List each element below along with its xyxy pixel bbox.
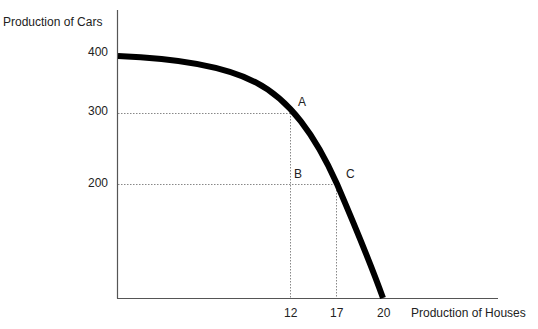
x-axis-label: Production of Houses [411, 307, 526, 319]
x-tick-17: 17 [330, 307, 343, 319]
ppf-curve [118, 56, 383, 298]
ppf-chart [0, 0, 538, 329]
y-tick-200: 200 [88, 177, 108, 189]
y-axis-label: Production of Cars [3, 16, 102, 28]
point-c-label: C [346, 168, 355, 180]
y-tick-400: 400 [88, 46, 108, 58]
point-b-label: B [294, 168, 302, 180]
x-tick-20: 20 [377, 307, 390, 319]
point-a-label: A [298, 96, 306, 108]
y-tick-300: 300 [88, 105, 108, 117]
x-tick-12: 12 [284, 307, 297, 319]
